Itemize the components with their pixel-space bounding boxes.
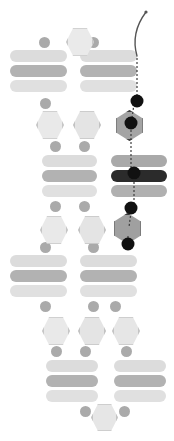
bottom-right-module-foot-dot-1[interactable] <box>119 406 130 417</box>
diagram-canvas <box>0 0 174 441</box>
bottom-right-module-bar-a[interactable] <box>114 360 166 372</box>
bottom-right-module-cap-dot-1[interactable] <box>121 346 132 357</box>
bottom-right-module-bar-b[interactable] <box>114 375 166 387</box>
bottom-right-module-bar-c[interactable] <box>114 390 166 402</box>
